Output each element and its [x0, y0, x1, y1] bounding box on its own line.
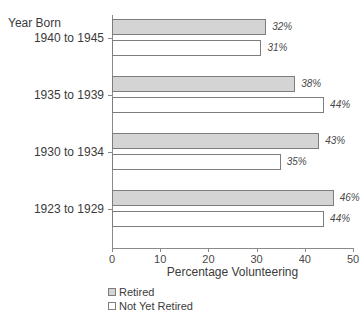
x-axis-title: Percentage Volunteering	[112, 265, 353, 279]
x-tick-label: 50	[347, 253, 359, 265]
plot-area: 01020304050 32%31%38%44%43%35%46%44%	[112, 15, 353, 248]
bar	[112, 19, 266, 35]
x-tick-label: 10	[154, 253, 166, 265]
bar-value-label: 44%	[330, 213, 350, 225]
category-label: 1935 to 1939	[0, 88, 104, 102]
bar-value-label: 38%	[301, 78, 321, 90]
category-label: 1940 to 1945	[0, 31, 104, 45]
x-axis-line	[112, 248, 353, 249]
bar	[112, 76, 295, 92]
x-tick-label: 40	[299, 253, 311, 265]
category-label: 1923 to 1929	[0, 202, 104, 216]
x-tick-mark	[305, 248, 306, 252]
y-axis-title: Year Born	[8, 16, 61, 30]
bar-value-label: 43%	[325, 135, 345, 147]
legend-label: Not Yet Retired	[119, 300, 193, 313]
bar	[112, 40, 261, 56]
bar-value-label: 35%	[287, 156, 307, 168]
bar	[112, 154, 281, 170]
bar	[112, 97, 324, 113]
bar	[112, 133, 319, 149]
x-tick-mark	[208, 248, 209, 252]
legend-label: Retired	[119, 286, 154, 299]
bar-value-label: 32%	[272, 21, 292, 33]
y-tick-mark	[108, 152, 112, 153]
x-tick-mark	[257, 248, 258, 252]
legend-item: Retired	[108, 285, 193, 299]
x-tick-label: 20	[202, 253, 214, 265]
x-tick-label: 0	[109, 253, 115, 265]
legend-swatch-icon	[108, 288, 116, 296]
category-label: 1930 to 1934	[0, 145, 104, 159]
legend-swatch-icon	[108, 302, 116, 310]
bar-value-label: 46%	[340, 192, 360, 204]
x-tick-mark	[112, 248, 113, 252]
chart-legend: RetiredNot Yet Retired	[108, 285, 193, 313]
bar	[112, 211, 324, 227]
y-tick-mark	[108, 95, 112, 96]
bar-value-label: 44%	[330, 99, 350, 111]
y-tick-mark	[108, 38, 112, 39]
x-tick-mark	[353, 248, 354, 252]
x-tick-label: 30	[250, 253, 262, 265]
legend-item: Not Yet Retired	[108, 299, 193, 313]
x-tick-mark	[160, 248, 161, 252]
y-tick-mark	[108, 209, 112, 210]
bar	[112, 190, 334, 206]
bar-value-label: 31%	[267, 42, 287, 54]
bar-chart: Year Born 1940 to 19451935 to 19391930 t…	[0, 0, 361, 323]
